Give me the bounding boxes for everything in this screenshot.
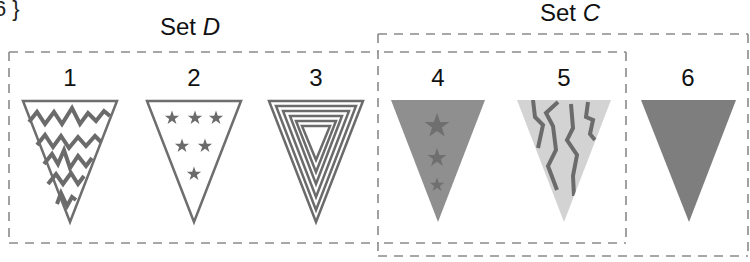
flag-6-number: 6 (668, 64, 708, 92)
flag-3-concentric (269, 101, 363, 222)
flag-1-zigzag (23, 101, 117, 222)
flag-2-number: 2 (174, 64, 214, 92)
flag-3-number: 3 (296, 64, 336, 92)
venn-boxes (0, 0, 750, 262)
flag-4-number: 4 (418, 64, 458, 92)
flag-5-number: 5 (544, 64, 584, 92)
flag-1-number: 1 (50, 64, 90, 92)
flag-5-wavy (517, 100, 611, 222)
flag-2-stars (147, 101, 241, 222)
flag-4-stars (391, 100, 485, 222)
flag-6-solid (641, 100, 736, 222)
